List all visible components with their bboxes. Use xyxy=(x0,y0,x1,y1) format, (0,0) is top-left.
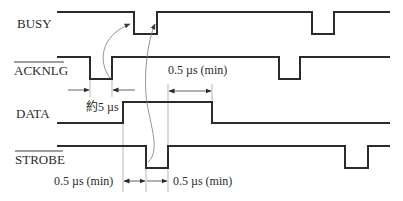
ack-to-busy-arrow xyxy=(103,24,130,78)
strobe-label-group: STROBE xyxy=(15,151,65,167)
acknlg-label: ACKNLG xyxy=(14,63,68,78)
busy-waveform xyxy=(57,12,390,34)
strobe-waveform xyxy=(57,146,390,168)
timing-diagram: BUSY ACKNLG DATA STROBE xyxy=(0,0,403,201)
ack-pulse-label: 約5 µs xyxy=(86,99,119,114)
data-hold-label: 0.5 µs (min) xyxy=(168,63,227,77)
data-label: DATA xyxy=(16,106,50,121)
busy-label: BUSY xyxy=(17,16,52,31)
strobe-to-busy-arrow xyxy=(145,24,155,162)
acknlg-label-group: ACKNLG xyxy=(14,62,68,78)
strobe-label: STROBE xyxy=(15,152,65,167)
strobe-setup-label: 0.5 µs (min) xyxy=(54,174,113,188)
strobe-hold-label: 0.5 µs (min) xyxy=(173,174,232,188)
